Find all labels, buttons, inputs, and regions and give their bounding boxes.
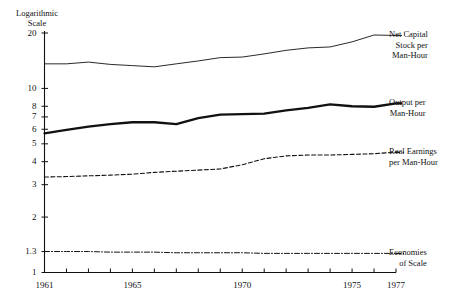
x-tick-label-1965: 1965 [115, 281, 149, 290]
series-label-line2: Man-Hour [389, 108, 426, 119]
series-label-line1: Output per [389, 97, 426, 108]
y-tick-label-1: 1 [11, 268, 37, 277]
series-label-line2: of Scale [389, 258, 427, 269]
axis-lines [45, 31, 397, 273]
series-label-line3: Man-Hour [389, 50, 428, 61]
x-tick-label-1975: 1975 [335, 281, 369, 290]
x-axis-ticks [45, 269, 397, 273]
plot-area [0, 0, 450, 304]
y-tick-label-1p3: 1.3 [11, 247, 37, 256]
y-tick-label-3: 3 [11, 180, 37, 189]
series-label-line1: Real Earnings [389, 146, 438, 157]
series-line-net-capital-stock-per-man-hour [45, 35, 397, 67]
series-label-output-per-man-hour: Output per Man-Hour [389, 97, 426, 118]
series-label-line1: Net Capital [389, 29, 428, 40]
x-tick-label-1977: 1977 [379, 281, 413, 290]
y-tick-label-6: 6 [11, 125, 37, 134]
series-label-economies-of-scale: Economies of Scale [389, 247, 427, 268]
series-line-economies-of-scale [45, 252, 397, 254]
x-tick-label-1961: 1961 [28, 281, 62, 290]
series-lines [45, 35, 397, 253]
x-tick-label-1970: 1970 [225, 281, 259, 290]
series-label-real-earnings: Real Earnings per Man-Hour [389, 146, 438, 167]
chart-container: Logarithmic Scale 20 10 8 7 6 5 4 3 2 1.… [0, 0, 450, 304]
y-tick-label-10: 10 [11, 84, 37, 93]
y-tick-label-2: 2 [11, 213, 37, 222]
y-tick-label-5: 5 [11, 139, 37, 148]
series-label-line2: Stock per [389, 40, 428, 51]
y-tick-label-20: 20 [11, 29, 37, 38]
series-label-net-capital-stock: Net Capital Stock per Man-Hour [389, 29, 428, 61]
y-tick-label-4: 4 [11, 157, 37, 166]
legend-leader-lines [396, 35, 404, 253]
y-tick-label-8: 8 [11, 102, 37, 111]
y-tick-label-7: 7 [11, 112, 37, 121]
series-line-output-per-man-hour [45, 103, 397, 133]
series-label-line2: per Man-Hour [389, 157, 438, 168]
series-line-real-earnings-per-man-hour [45, 152, 397, 177]
series-label-line1: Economies [389, 247, 427, 258]
